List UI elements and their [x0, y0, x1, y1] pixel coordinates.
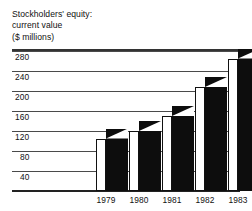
bar-side-face-1983	[238, 49, 252, 192]
chart-figure: Stockholders' equity: current value ($ m…	[0, 0, 252, 211]
bar-front-face-1983	[228, 59, 238, 192]
x-axis-label-1980: 1980	[122, 195, 156, 205]
y-axis-tick-200: 200	[15, 93, 29, 102]
chart-title-line-2: current value	[12, 20, 212, 31]
y-axis-tick-240: 240	[15, 73, 29, 82]
y-axis-tick-80: 80	[20, 153, 30, 162]
bar-side-face-1982	[205, 77, 227, 191]
bar-side-face-1980	[139, 121, 161, 191]
chart-title: Stockholders' equity: current value ($ m…	[12, 9, 212, 43]
bar-front-face-1981	[162, 116, 172, 191]
x-axis-label-1979: 1979	[89, 195, 123, 205]
chart-title-line-1: Stockholders' equity:	[12, 9, 212, 20]
bar-side-face-1981	[172, 106, 194, 191]
gridline-280	[12, 51, 240, 52]
x-axis-label-1983: 1983	[221, 195, 252, 205]
bar-front-face-1979	[96, 139, 106, 192]
x-axis-label-1982: 1982	[188, 195, 222, 205]
y-axis-tick-160: 160	[15, 113, 29, 122]
x-axis-label-1981: 1981	[155, 195, 189, 205]
bar-front-face-1982	[195, 87, 205, 191]
bar-1979	[96, 128, 128, 192]
y-axis-tick-40: 40	[20, 173, 30, 182]
bar-1982	[195, 76, 227, 191]
bar-1980	[129, 120, 161, 191]
bar-front-face-1980	[129, 131, 139, 191]
plot-area: 2802402001601208040	[12, 49, 240, 191]
bar-1981	[162, 105, 194, 191]
gridline-240	[12, 71, 240, 72]
chart-title-line-3: ($ millions)	[12, 32, 212, 43]
y-axis-tick-280: 280	[15, 53, 29, 62]
bar-1983	[228, 48, 252, 192]
y-axis-tick-120: 120	[15, 133, 29, 142]
